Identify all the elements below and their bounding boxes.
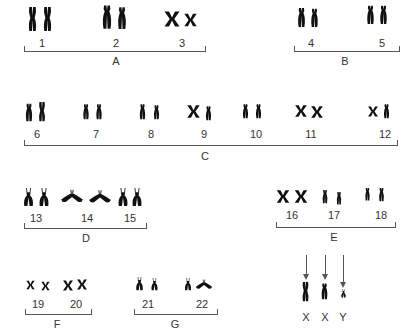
chromosome-15-pair	[117, 188, 147, 208]
chromosome-number-12: 12	[373, 128, 397, 140]
group-e-bracket	[276, 222, 396, 228]
chromosome-6-pair	[24, 101, 54, 123]
arrow-y	[343, 255, 344, 283]
group-label-c: C	[195, 150, 215, 162]
group-label-d: D	[76, 232, 96, 244]
chromosome-22-pair	[183, 277, 215, 292]
chromosome-21-pair	[134, 277, 164, 292]
chromosome-number-17: 17	[322, 209, 346, 221]
chromosome-7-pair	[80, 102, 110, 122]
chromosome-y	[338, 289, 350, 299]
group-label-g: G	[165, 318, 185, 330]
group-label-b: B	[335, 55, 355, 67]
group-f-bracket	[25, 309, 92, 315]
chromosome-number-16: 16	[280, 209, 304, 221]
chromosome-number-18: 18	[369, 209, 393, 221]
chromosome-9-pair	[186, 101, 218, 123]
chromosome-13-pair	[22, 188, 56, 208]
chromosome-16-pair	[275, 189, 311, 205]
chromosome-11-pair	[293, 104, 327, 120]
group-label-e: E	[324, 231, 344, 243]
group-label-f: F	[47, 318, 67, 330]
chromosome-19-pair	[25, 280, 55, 292]
arrow-x2	[325, 255, 326, 275]
chromosome-1-pair	[25, 6, 61, 32]
chromosome-14-pair	[60, 189, 112, 207]
chromosome-number-8: 8	[139, 128, 163, 140]
chromosome-20-pair	[62, 278, 92, 293]
chromosome-number-7: 7	[84, 128, 108, 140]
chromosome-4-pair	[295, 5, 327, 29]
chromosome-number-10: 10	[244, 128, 268, 140]
chromosome-x1	[299, 281, 313, 303]
group-label-a: A	[106, 55, 126, 67]
chromosome-5-pair	[364, 3, 396, 27]
group-d-bracket	[24, 223, 147, 229]
chromosome-number-11: 11	[299, 128, 323, 140]
chromosome-2-pair	[100, 2, 136, 32]
chromosome-18-pair	[362, 186, 394, 204]
group-b-bracket	[294, 46, 400, 52]
sex-chromosome-label-y: Y	[331, 311, 355, 323]
group-c-bracket	[24, 140, 398, 146]
chromosome-number-6: 6	[25, 128, 49, 140]
group-g-bracket	[134, 309, 218, 315]
chromosome-x2	[318, 281, 332, 301]
group-a-bracket	[24, 46, 206, 52]
chromosome-10-pair	[240, 102, 270, 122]
chromosome-12-pair	[367, 102, 397, 122]
arrow-x1	[306, 255, 307, 275]
chromosome-3-pair	[163, 8, 203, 30]
chromosome-number-9: 9	[192, 128, 216, 140]
chromosome-17-pair	[319, 188, 351, 206]
chromosome-8-pair	[137, 102, 167, 122]
